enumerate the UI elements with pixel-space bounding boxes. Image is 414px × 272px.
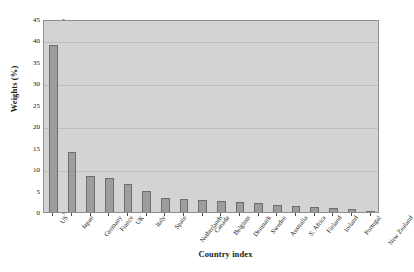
bar [236, 202, 245, 212]
y-axis-tick-labels: 051015202530354045 [20, 20, 40, 213]
x-axis-tick-mark [146, 213, 147, 216]
x-axis-title: Country index [0, 249, 408, 259]
bar [105, 178, 114, 212]
x-axis-tick-mark [239, 213, 240, 216]
x-axis-tick-mark [90, 213, 91, 216]
y-axis-tick-label: 15 [20, 145, 40, 153]
x-axis-tick-mark [314, 213, 315, 216]
x-axis-tick-label: Belgium [232, 214, 252, 236]
x-axis-tick-mark [127, 213, 128, 216]
bar [292, 206, 301, 212]
x-axis-tick-mark [183, 213, 184, 216]
x-axis-tick-label: UK [134, 214, 145, 226]
bar [273, 205, 282, 212]
y-axis-tick-label: 30 [20, 80, 40, 88]
y-axis-tick-label: 40 [20, 37, 40, 45]
x-axis-tick-label: Portugal [363, 214, 382, 236]
y-axis-tick-label: 10 [20, 166, 40, 174]
y-axis-tick-label: 45 [20, 16, 40, 24]
x-axis-tick-mark [332, 213, 333, 216]
bar [142, 191, 151, 212]
bar [198, 200, 207, 212]
x-axis-tick-label: Ireland [343, 214, 360, 233]
y-axis-tick-label: 25 [20, 102, 40, 110]
bar [329, 208, 338, 212]
plot-area [43, 20, 379, 213]
x-axis-tick-mark [71, 213, 72, 216]
x-axis-tick-label: Australia [289, 214, 309, 237]
x-axis-tick-mark [108, 213, 109, 216]
x-axis-tick-mark [202, 213, 203, 216]
x-axis-tick-mark [295, 213, 296, 216]
x-axis-tick-label: Spain [173, 214, 188, 230]
x-axis-tick-mark [52, 213, 53, 216]
x-axis-tick-label: Denmark [251, 214, 272, 238]
y-axis-tick-label: 35 [20, 59, 40, 67]
y-axis-tick-label: 0 [20, 209, 40, 217]
y-axis-tick-label: 5 [20, 188, 40, 196]
y-axis-title: Weights (%) [9, 49, 19, 129]
bar [68, 152, 77, 212]
x-axis-tick-label: New Zealand [386, 214, 413, 246]
x-axis-tick-label: Italy [153, 214, 166, 228]
x-axis-tick-label: S. Africa [307, 214, 327, 237]
bar [366, 211, 375, 212]
x-axis-tick-mark [220, 213, 221, 216]
bar [254, 203, 263, 212]
x-axis-tick-mark [351, 213, 352, 216]
x-axis-tick-label: Japan [80, 214, 95, 230]
x-axis-tick-mark [164, 213, 165, 216]
x-axis-tick-mark [370, 213, 371, 216]
y-axis-tick-label: 20 [20, 123, 40, 131]
bar [124, 184, 133, 212]
bar [161, 198, 170, 212]
bar [49, 45, 58, 212]
bar [86, 176, 95, 212]
x-axis-tick-label: Finland [324, 214, 342, 234]
x-axis-tick-label: US [59, 214, 70, 225]
x-axis-tick-mark [258, 213, 259, 216]
bars-container [44, 21, 378, 212]
bar [348, 209, 357, 212]
x-axis-tick-mark [276, 213, 277, 216]
bar [310, 207, 319, 212]
bar [217, 201, 226, 212]
bar [180, 199, 189, 212]
